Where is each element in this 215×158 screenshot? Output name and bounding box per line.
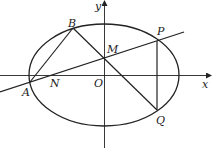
label-point-n: N [49, 77, 60, 90]
label-x-axis: x [202, 78, 209, 91]
label-point-p: P [156, 25, 165, 38]
segment-bq [73, 28, 157, 110]
label-point-m: M [106, 43, 119, 56]
label-point-q: Q [156, 114, 165, 127]
label-point-b: B [67, 17, 76, 30]
segment-ab [30, 28, 73, 82]
geometry-diagram: y x O B M P A N Q [0, 0, 215, 158]
label-point-a: A [21, 86, 30, 99]
label-origin: O [94, 77, 103, 90]
label-y-axis: y [94, 0, 102, 13]
